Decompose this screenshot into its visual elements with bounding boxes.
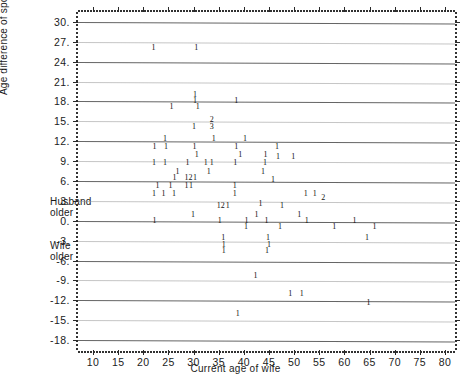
y-tick-mark-right [455, 121, 460, 122]
x-tick-mark-top [93, 7, 94, 12]
x-tick-mark [219, 350, 220, 355]
y-tick-mark-right [455, 161, 460, 162]
data-point-marker: 1 [271, 176, 275, 184]
y-tick-mark-right [455, 101, 460, 102]
y-tick-label: 21. [26, 76, 70, 88]
gridline [78, 280, 455, 282]
x-tick-mark [269, 350, 270, 355]
y-tick-mark [73, 101, 78, 102]
y-tick-label: 6. [26, 175, 70, 187]
x-tick-mark-top [244, 7, 245, 12]
y-tick-label: 0. [26, 215, 70, 227]
y-tick-label: -12. [26, 294, 70, 306]
y-tick-mark [73, 300, 78, 301]
data-point-marker: 1 [243, 135, 247, 143]
data-point-marker: 1 [193, 174, 197, 182]
y-axis-title: Age difference of spouses [0, 0, 9, 95]
gridline [78, 62, 455, 64]
data-point-marker: 1 [195, 151, 199, 159]
y-tick-mark [73, 62, 78, 63]
x-tick-mark [194, 350, 195, 355]
data-point-marker: 1 [352, 217, 356, 225]
y-tick-mark-right [455, 280, 460, 281]
y-tick-mark-right [455, 22, 460, 23]
data-point-marker: 2 [321, 194, 325, 202]
data-point-marker: 1 [194, 44, 198, 52]
x-tick-mark-top [395, 7, 396, 12]
x-tick-mark-top [219, 7, 220, 12]
data-point-marker: 1 [189, 182, 193, 190]
x-tick-mark [420, 350, 421, 355]
x-tick-mark-top [344, 7, 345, 12]
data-point-marker: 1 [288, 290, 292, 298]
data-point-marker: 1 [233, 190, 237, 198]
data-point-marker: 1 [169, 103, 173, 111]
x-tick-mark [294, 350, 295, 355]
data-point-marker: 1 [278, 223, 282, 231]
data-point-marker: 1 [265, 217, 269, 225]
y-tick-label: 24. [26, 56, 70, 68]
gridline [78, 261, 455, 263]
y-tick-mark-right [455, 42, 460, 43]
x-tick-mark-top [143, 7, 144, 12]
gridline [78, 201, 455, 203]
x-tick-mark-top [269, 7, 270, 12]
y-tick-mark [73, 320, 78, 321]
gridline [78, 141, 455, 143]
data-point-marker: 1 [275, 143, 279, 151]
y-tick-mark-right [455, 201, 460, 202]
y-tick-mark [73, 141, 78, 142]
x-tick-mark [93, 350, 94, 355]
data-point-marker: 1 [164, 143, 168, 151]
y-tick-mark-right [455, 82, 460, 83]
x-tick-mark-top [118, 7, 119, 12]
plot-area: 1111111231111111111111111111111111121111… [78, 12, 455, 350]
data-point-marker: 1 [367, 299, 371, 307]
data-point-marker: 1 [253, 272, 257, 280]
data-point-marker: 1 [265, 247, 269, 255]
gridline [78, 340, 455, 342]
y-tick-mark [73, 280, 78, 281]
x-tick-mark [370, 350, 371, 355]
data-point-marker: 1 [185, 182, 189, 190]
x-tick-mark [143, 350, 144, 355]
data-point-marker: 1 [254, 211, 258, 219]
data-point-marker: 1 [155, 182, 159, 190]
x-tick-mark [168, 350, 169, 355]
y-tick-label: 15. [26, 115, 70, 127]
y-tick-mark [73, 121, 78, 122]
y-tick-mark [73, 221, 78, 222]
x-tick-mark-top [294, 7, 295, 12]
y-tick-label: 27. [26, 36, 70, 48]
data-point-marker: 1 [218, 217, 222, 225]
y-tick-label: 18. [26, 95, 70, 107]
data-point-marker: 1 [276, 153, 280, 161]
data-point-marker: 1 [172, 190, 176, 198]
data-point-marker: 1 [152, 190, 156, 198]
data-point-marker: 1 [236, 310, 240, 318]
data-point-marker: 1 [258, 200, 262, 208]
data-point-marker: 1 [280, 202, 284, 210]
y-tick-mark-right [455, 241, 460, 242]
data-point-marker: 1 [305, 217, 309, 225]
y-tick-mark-right [455, 300, 460, 301]
data-point-marker: 2 [221, 202, 225, 210]
x-tick-mark [244, 350, 245, 355]
data-point-marker: 1 [297, 211, 301, 219]
x-tick-mark-top [319, 7, 320, 12]
gridline [78, 121, 455, 123]
data-point-marker: 1 [192, 123, 196, 131]
data-point-marker: 1 [186, 159, 190, 167]
data-point-marker: 1 [234, 97, 238, 105]
y-tick-mark [73, 82, 78, 83]
y-tick-mark [73, 201, 78, 202]
x-tick-mark [319, 350, 320, 355]
gridline [78, 181, 455, 183]
data-point-marker: 1 [332, 223, 336, 231]
data-point-marker: 1 [161, 190, 165, 198]
y-tick-mark-right [455, 221, 460, 222]
x-tick-mark [344, 350, 345, 355]
plot-frame-bottom [78, 351, 455, 353]
data-point-marker: 1 [152, 143, 156, 151]
x-tick-mark [395, 350, 396, 355]
